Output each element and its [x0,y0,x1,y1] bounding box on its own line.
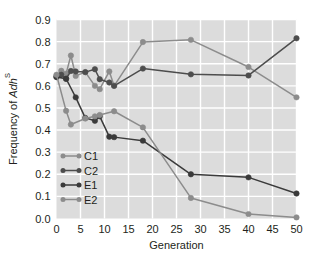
data-point-c1 [246,64,251,69]
data-point-e2 [246,211,251,216]
data-point-e1 [63,76,68,81]
data-point-e2 [111,109,116,114]
data-point-c1 [188,37,193,42]
x-tick-label: 35 [218,223,230,235]
data-point-e1 [111,134,116,139]
data-point-e1 [294,191,299,196]
x-axis-ticks: 05101520253035404550 [53,223,302,235]
data-point-c1 [107,69,112,74]
data-point-c1 [92,83,97,88]
y-tick-label: 0.6 [35,80,50,92]
data-point-c2 [188,72,193,77]
y-tick-label: 0.9 [35,14,50,26]
data-point-c2 [92,67,97,72]
data-point-c2 [97,77,102,82]
x-tick-label: 15 [122,223,134,235]
data-point-c1 [97,86,102,91]
data-point-e2 [188,195,193,200]
data-point-e2 [54,72,59,77]
data-point-e2 [83,116,88,121]
data-point-e2 [97,112,102,117]
legend-marker-end [77,154,82,159]
data-point-c2 [246,73,251,78]
legend-marker-end [77,168,82,173]
chart-container: 0.00.10.20.30.40.50.60.70.80.90510152025… [0,0,309,262]
x-tick-label: 5 [77,223,83,235]
y-axis-title-superscript: S [3,73,12,78]
legend-marker-start [61,154,66,159]
y-tick-label: 0.7 [35,58,50,70]
x-tick-label: 50 [290,223,302,235]
x-tick-label: 10 [98,223,110,235]
legend-label: E1 [84,179,97,191]
legend-marker-start [61,197,66,202]
data-point-c1 [140,39,145,44]
legend-marker-start [61,168,66,173]
y-tick-label: 0.5 [35,102,50,114]
data-point-c2 [294,36,299,41]
data-point-c2 [107,80,112,85]
data-point-e2 [63,108,68,113]
y-tick-label: 0.8 [35,36,50,48]
data-point-e2 [294,215,299,220]
x-tick-label: 30 [194,223,206,235]
legend-label: C2 [84,165,98,177]
y-tick-label: 0.2 [35,168,50,180]
y-tick-label: 0.0 [35,213,50,225]
y-axis-title-prefix: Frequency of [7,98,19,165]
data-point-e2 [140,125,145,130]
data-point-e1 [140,138,145,143]
x-tick-label: 20 [146,223,158,235]
legend-marker-end [77,197,82,202]
data-point-c2 [83,69,88,74]
x-tick-label: 0 [53,223,59,235]
data-point-e1 [73,95,78,100]
x-axis-title: Generation [149,239,203,251]
data-point-c2 [111,83,116,88]
legend-marker-start [61,183,66,188]
y-axis-title: Frequency of AdhS [3,73,20,165]
data-point-c1 [294,95,299,100]
x-tick-label: 40 [242,223,254,235]
y-axis-ticks: 0.00.10.20.30.40.50.60.70.80.9 [35,14,50,225]
x-tick-label: 25 [170,223,182,235]
data-point-e1 [188,172,193,177]
x-tick-label: 45 [266,223,278,235]
data-point-c2 [140,66,145,71]
frequency-line-chart: 0.00.10.20.30.40.50.60.70.80.90510152025… [0,0,309,262]
legend-marker-end [77,183,82,188]
data-point-c1 [68,53,73,58]
data-point-c2 [73,69,78,74]
y-tick-label: 0.4 [35,124,50,136]
data-point-e1 [246,175,251,180]
data-point-e2 [68,122,73,127]
legend-label: C1 [84,150,98,162]
legend-label: E2 [84,194,97,206]
y-tick-label: 0.3 [35,146,50,158]
y-tick-label: 0.1 [35,190,50,202]
y-axis-title-gene: Adh [7,78,19,99]
